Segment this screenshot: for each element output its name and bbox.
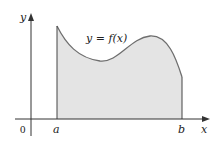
curve-label: y = f(x) [85, 32, 127, 45]
x-axis-arrow-icon [202, 116, 210, 122]
y-axis-arrow-icon [28, 13, 34, 21]
left-bound-label: a [53, 123, 60, 136]
x-axis-label: x [201, 123, 208, 136]
area-under-curve-diagram: y x 0 a b y = f(x) [0, 0, 220, 142]
origin-label: 0 [20, 123, 26, 135]
right-bound-label: b [178, 123, 185, 136]
y-axis-label: y [19, 11, 27, 24]
